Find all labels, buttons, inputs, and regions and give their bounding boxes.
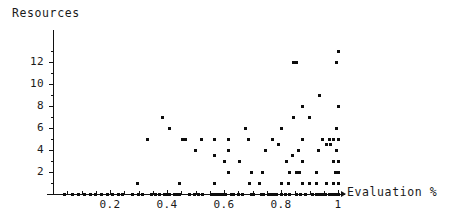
y-tick-minor — [51, 51, 54, 52]
data-point — [227, 171, 230, 174]
data-point — [337, 160, 340, 163]
x-tick-minor — [181, 191, 182, 194]
y-axis-label: Resources — [12, 6, 80, 20]
data-point — [200, 138, 203, 141]
scatter-plot-figure: Resources Evaluation % 24681012 0.20.40.… — [0, 0, 462, 222]
data-point — [325, 182, 328, 185]
data-point — [247, 138, 250, 141]
y-tick-label: 10 — [22, 77, 44, 90]
data-point — [158, 193, 161, 196]
data-point — [301, 105, 304, 108]
data-point — [337, 138, 340, 141]
data-point — [262, 193, 265, 196]
y-tick-major — [49, 172, 54, 173]
data-point — [271, 138, 274, 141]
data-point — [337, 50, 340, 53]
data-point — [224, 193, 227, 196]
y-tick-label: 12 — [22, 55, 44, 68]
data-point — [193, 193, 196, 196]
y-tick-minor — [51, 117, 54, 118]
y-axis-line — [53, 30, 54, 195]
data-point — [168, 193, 171, 196]
data-point — [71, 193, 74, 196]
data-point — [311, 193, 314, 196]
data-point — [94, 193, 97, 196]
data-point — [315, 171, 318, 174]
data-point — [337, 171, 340, 174]
x-axis-arrow-icon — [341, 191, 346, 197]
data-point — [325, 143, 328, 146]
y-tick-major — [49, 106, 54, 107]
x-axis-label: Evaluation % — [347, 185, 437, 199]
y-tick-label: 2 — [22, 165, 44, 178]
y-tick-major — [49, 150, 54, 151]
data-point — [337, 105, 340, 108]
data-point — [337, 193, 340, 196]
data-point — [291, 154, 294, 157]
data-point — [258, 182, 261, 185]
data-point — [106, 193, 109, 196]
data-point — [288, 171, 291, 174]
data-point — [232, 193, 235, 196]
x-tick-minor — [67, 191, 68, 194]
data-point — [332, 160, 335, 163]
data-point — [308, 182, 311, 185]
y-tick-label: 8 — [22, 99, 44, 112]
data-point — [285, 160, 288, 163]
data-point — [83, 193, 86, 196]
data-point — [284, 193, 287, 196]
data-point — [250, 171, 253, 174]
data-point — [223, 160, 226, 163]
data-point — [161, 116, 164, 119]
data-point — [136, 182, 139, 185]
data-point — [111, 193, 114, 196]
data-point — [168, 127, 171, 130]
data-point — [227, 149, 230, 152]
data-point — [318, 94, 321, 97]
data-point — [137, 193, 140, 196]
data-point — [329, 143, 332, 146]
y-tick-minor — [51, 95, 54, 96]
data-point — [275, 193, 278, 196]
y-tick-minor — [51, 73, 54, 74]
data-point — [295, 61, 298, 64]
y-tick-label: 6 — [22, 121, 44, 134]
data-point — [317, 149, 320, 152]
y-tick-label: 4 — [22, 143, 44, 156]
data-point — [304, 193, 307, 196]
data-point — [117, 193, 120, 196]
data-point — [335, 149, 338, 152]
data-point — [194, 149, 197, 152]
data-point — [241, 193, 244, 196]
data-point — [337, 182, 340, 185]
data-point — [292, 116, 295, 119]
data-point — [280, 127, 283, 130]
data-point — [154, 193, 157, 196]
data-point — [248, 182, 251, 185]
data-point — [332, 138, 335, 141]
data-point — [184, 138, 187, 141]
data-point — [308, 116, 311, 119]
data-point — [63, 193, 66, 196]
y-tick-minor — [51, 139, 54, 140]
x-tick-label: 1 — [318, 198, 358, 211]
y-tick-minor — [51, 161, 54, 162]
data-point — [261, 171, 264, 174]
data-point — [178, 182, 181, 185]
data-point — [295, 193, 298, 196]
data-point — [324, 193, 327, 196]
data-point — [328, 138, 331, 141]
data-point — [335, 61, 338, 64]
data-point — [264, 149, 267, 152]
data-point — [213, 138, 216, 141]
data-point — [280, 182, 283, 185]
data-point — [321, 138, 324, 141]
data-point — [299, 193, 302, 196]
data-point — [188, 193, 191, 196]
data-point — [238, 160, 241, 163]
data-point — [178, 193, 181, 196]
y-tick-minor — [51, 183, 54, 184]
y-tick-major — [49, 84, 54, 85]
data-point — [237, 193, 240, 196]
data-point — [141, 193, 144, 196]
